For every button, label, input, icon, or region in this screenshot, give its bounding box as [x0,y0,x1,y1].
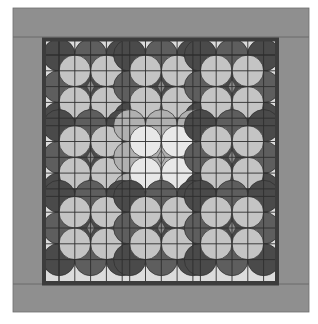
quilt-illustration [0,0,318,324]
